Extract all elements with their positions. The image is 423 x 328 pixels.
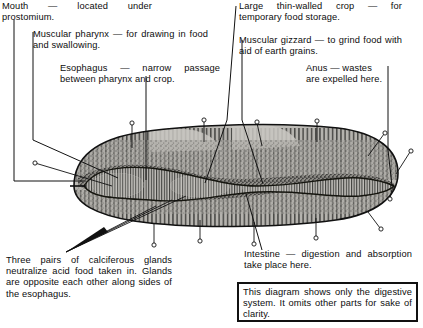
caption-box: This diagram shows only the digestive sy… [237,282,418,322]
annotation-crop: Large thin-walled crop — for temporary f… [239,1,402,23]
annotation-mouth: Mouth — located under prostomium. [2,1,152,23]
annotation-esophagus: Esophagus — narrow passage between phary… [60,63,220,85]
caption-text: This diagram shows only the digestive sy… [239,284,416,321]
annotation-calciferous-glands: Three pairs of calciferous glands neutra… [6,255,172,300]
annotation-anus: Anus — wastes are expelled here. [306,63,388,85]
leader-pin-upper-6 [396,149,413,174]
annotation-intestine: Intestine — digestion and absorption tak… [244,249,412,271]
figure-stage: Mouth — located under prostomium. Muscul… [0,0,423,328]
annotation-muscular-pharynx: Muscular pharynx — for drawing in food a… [33,29,208,51]
leader-pin-lower-1 [152,224,156,247]
annotation-muscular-gizzard: Muscular gizzard — to grind food with ai… [239,35,402,57]
leader-pin-lower-5 [368,212,383,231]
